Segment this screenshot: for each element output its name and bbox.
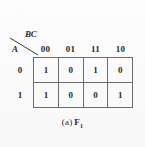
table-row: 1 0 1 0 [34, 58, 132, 83]
figure-caption: (a)F1 [0, 117, 145, 129]
kmap-cell-r1-c2[interactable]: 0 [84, 83, 109, 107]
caption-subscript: 1 [80, 123, 83, 129]
column-header-11: 11 [83, 43, 108, 56]
caption-prefix: (a) [62, 117, 73, 127]
kmap-cell-grid: 1 0 1 0 1 0 0 1 [33, 57, 133, 108]
kmap-cell-r0-c2[interactable]: 1 [84, 58, 109, 82]
row-variable-label: A [12, 45, 18, 54]
column-variable-label: BC [25, 30, 37, 39]
kmap-cell-r0-c1[interactable]: 0 [59, 58, 84, 82]
kmap-cell-r1-c3[interactable]: 1 [108, 83, 132, 107]
row-header-0: 0 [13, 57, 27, 83]
kmap-cell-r1-c1[interactable]: 0 [59, 83, 84, 107]
kmap-row-headers: 0 1 [13, 57, 27, 108]
table-row: 1 0 0 1 [34, 83, 132, 107]
kmap-cell-r0-c3[interactable]: 0 [108, 58, 132, 82]
kmap-cell-r0-c0[interactable]: 1 [34, 58, 59, 82]
karnaugh-map-figure: BC A 00 01 11 10 0 1 1 0 1 0 1 0 0 1 (a)… [0, 0, 145, 147]
column-header-10: 10 [108, 43, 133, 56]
kmap-column-headers: 00 01 11 10 [33, 43, 133, 56]
kmap-cell-r1-c0[interactable]: 1 [34, 83, 59, 107]
column-header-00: 00 [33, 43, 58, 56]
column-header-01: 01 [58, 43, 83, 56]
row-header-1: 1 [13, 83, 27, 109]
